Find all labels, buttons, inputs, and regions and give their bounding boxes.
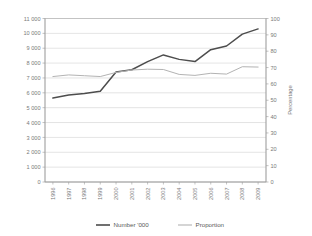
y-axis-tick-label: 11 000 <box>24 16 41 22</box>
y2-axis-tick-label: 20 <box>271 146 277 152</box>
line-chart: 01 0002 0003 0004 0005 0006 0007 0008 00… <box>0 0 312 236</box>
x-axis-tick-label: 2003 <box>160 188 166 200</box>
chart-background <box>0 0 312 236</box>
x-axis-tick-label: 2009 <box>255 188 261 200</box>
y2-axis-tick-label: 50 <box>271 97 277 103</box>
y-axis-tick-label: 0 <box>37 179 40 185</box>
legend-label: Proportion <box>196 221 225 228</box>
x-axis-tick-label: 2008 <box>239 187 245 199</box>
x-axis-tick-label: 1998 <box>81 188 87 200</box>
y-axis-tick-label: 9 000 <box>27 45 41 51</box>
x-axis-tick-label: 1999 <box>97 188 103 200</box>
x-axis-tick-label: 2006 <box>208 188 214 200</box>
x-axis-tick-label: 2001 <box>129 188 135 200</box>
x-axis-tick-label: 2007 <box>224 188 230 200</box>
y2-axis-tick-label: 70 <box>271 65 277 71</box>
x-axis-tick-label: 2004 <box>176 188 182 200</box>
y2-axis-tick-label: 80 <box>271 48 277 54</box>
x-axis-tick-label: 1996 <box>50 188 56 200</box>
y2-axis-tick-label: 40 <box>271 114 277 120</box>
y-axis-tick-label: 1 000 <box>27 164 41 170</box>
chart-container: 01 0002 0003 0004 0005 0006 0007 0008 00… <box>0 0 312 236</box>
y2-axis-tick-label: 0 <box>271 179 274 185</box>
y2-axis-tick-label: 30 <box>271 130 277 136</box>
y-axis-tick-label: 8 000 <box>27 60 41 66</box>
legend-label: Number '000 <box>114 221 150 228</box>
y-axis-tick-label: 6 000 <box>27 90 41 96</box>
y-axis-right-title: Percentage <box>287 85 293 115</box>
y-axis-tick-label: 7 000 <box>27 75 41 81</box>
y-axis-tick-label: 3 000 <box>27 135 41 141</box>
y-axis-tick-label: 2 000 <box>27 149 41 155</box>
x-axis-tick-label: 2005 <box>192 188 198 200</box>
y-axis-tick-label: 4 000 <box>27 120 41 126</box>
y2-axis-tick-label: 10 <box>271 163 277 169</box>
y-axis-tick-label: 5 000 <box>27 105 41 111</box>
x-axis-tick-label: 2000 <box>113 188 119 200</box>
y2-axis-tick-label: 60 <box>271 81 277 87</box>
x-axis-tick-label: 2002 <box>145 188 151 200</box>
y2-axis-tick-label: 90 <box>271 32 277 38</box>
y2-axis-tick-label: 100 <box>271 16 280 22</box>
x-axis-tick-label: 1997 <box>66 188 72 200</box>
y-axis-tick-label: 10 000 <box>23 30 40 36</box>
